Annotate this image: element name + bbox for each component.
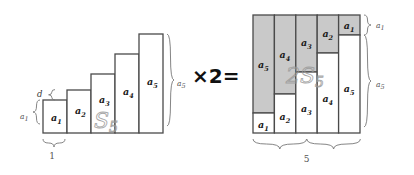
brace-a1-right-label: a1 <box>376 21 385 32</box>
brace-a1-left-label: a1 <box>20 112 29 123</box>
figure-canvas: S5 a1 a2 a3 a4 a5 d a1 a5 1 ×2= <box>0 0 414 175</box>
d-label: d <box>37 89 43 99</box>
brace-a5-left-label: a5 <box>177 79 186 90</box>
right-rectangle: 2S5 a5 a4 a3 a2 a1 a1 a2 a3 a4 a5 a1 <box>253 15 385 164</box>
brace-d <box>49 90 55 100</box>
brace-a1-right <box>364 15 371 35</box>
operator-times-two-equals: ×2= <box>192 64 239 88</box>
brace-width-left <box>43 139 65 147</box>
brace-width-right <box>253 139 307 149</box>
brace-width-left-label: 1 <box>49 151 55 161</box>
left-staircase: S5 a1 a2 a3 a4 a5 d a1 a5 1 <box>20 34 186 161</box>
brace-width-right-2 <box>307 139 361 149</box>
brace-width-right-label: 5 <box>304 154 310 164</box>
brace-a5-right-label: a5 <box>376 80 385 91</box>
brace-a5-right <box>364 35 371 127</box>
brace-a5-left <box>167 34 174 126</box>
brace-a1-left <box>33 100 40 124</box>
